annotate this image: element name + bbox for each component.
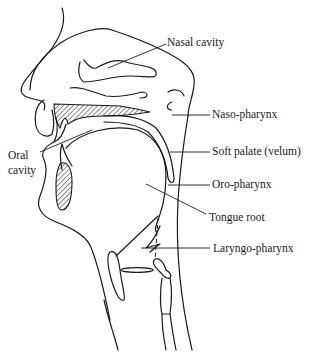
tongue-dorsum (66, 128, 166, 252)
label-oral-cavity-line2: cavity (8, 164, 36, 177)
nasal-turbinate-lower (70, 88, 147, 98)
adenoid-curve (168, 102, 173, 110)
thyroid-cartilage (108, 252, 125, 301)
vocal-folds (121, 268, 153, 273)
nasal-turbinate-back (168, 90, 184, 96)
label-laryngo-pharynx: Laryngo-pharynx (213, 242, 294, 255)
lower-lip-chin (39, 142, 110, 320)
label-tongue-root: Tongue root (209, 211, 266, 224)
pharyngeal-wall (177, 116, 192, 350)
label-naso-pharynx: Naso-pharynx (212, 108, 277, 121)
leader-tongue-root (146, 184, 206, 214)
label-oro-pharynx: Oro-pharynx (212, 178, 272, 191)
soft-palate (104, 116, 174, 183)
nasal-turbinate-upper (79, 60, 156, 82)
arytenoid (153, 259, 170, 279)
label-oral-cavity-line1: Oral (8, 149, 28, 161)
hard-palate (54, 104, 150, 128)
leader-oral-cavity (40, 130, 92, 152)
label-nasal-cavity: Nasal cavity (167, 36, 224, 49)
vocal-tract-diagram: Nasal cavity Naso-pharynx Oral cavity So… (0, 0, 309, 357)
lower-jaw-bone (56, 163, 72, 210)
trachea-front (104, 300, 118, 350)
label-soft-palate: Soft palate (velum) (212, 145, 301, 158)
esophagus (161, 278, 177, 350)
